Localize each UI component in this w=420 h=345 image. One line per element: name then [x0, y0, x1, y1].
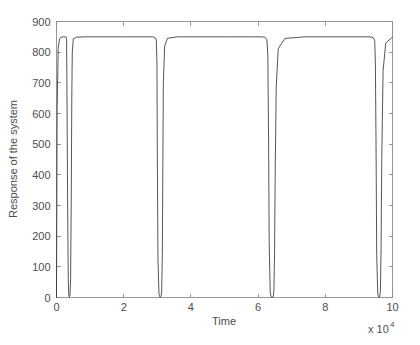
x-axis-label: Time	[212, 315, 236, 327]
y-tick-label: 0	[44, 292, 50, 304]
y-tick-label: 900	[32, 16, 50, 28]
y-tick-label: 700	[32, 77, 50, 89]
x-tick-label: 2	[121, 301, 127, 313]
x-tick-label: 6	[255, 301, 261, 313]
y-tick-label: 400	[32, 169, 50, 181]
x-tick-label: 10	[386, 301, 398, 313]
axes-frame	[57, 22, 393, 298]
y-tick-label: 500	[32, 138, 50, 150]
y-tick-label: 600	[32, 108, 50, 120]
y-axis-label: Response of the system	[7, 100, 19, 218]
axes-box	[57, 22, 393, 298]
data-curve	[57, 37, 393, 298]
response-line-chart: 0246810 0100200300400500600700800900 Tim…	[0, 0, 420, 345]
y-tick-label: 800	[32, 46, 50, 58]
x-tick-label: 4	[188, 301, 194, 313]
x-axis-multiplier-base: x 10	[368, 323, 389, 335]
data-series-group	[57, 37, 393, 298]
y-axis-ticks	[57, 22, 393, 298]
y-tick-label: 100	[32, 261, 50, 273]
y-tick-label: 300	[32, 200, 50, 212]
y-axis-tick-labels: 0100200300400500600700800900	[32, 16, 50, 304]
x-axis-multiplier-exponent: 4	[390, 320, 395, 329]
x-axis-ticks	[57, 22, 393, 298]
figure-container: 0246810 0100200300400500600700800900 Tim…	[0, 0, 420, 345]
x-tick-label: 0	[53, 301, 59, 313]
x-tick-label: 8	[322, 301, 328, 313]
x-axis-tick-labels: 0246810	[53, 301, 398, 313]
y-tick-label: 200	[32, 230, 50, 242]
